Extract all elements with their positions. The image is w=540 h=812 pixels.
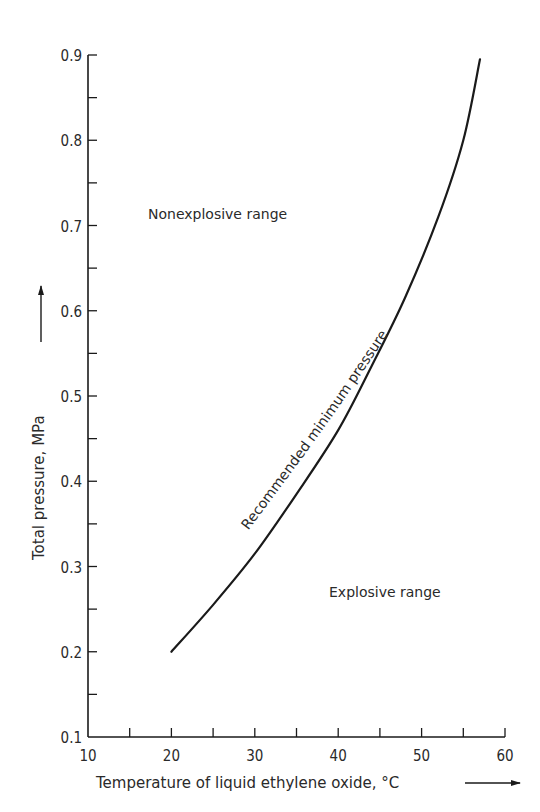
y-tick-label: 0.5 — [61, 388, 82, 406]
y-tick-label: 0.2 — [61, 644, 82, 662]
x-axis-title: Temperature of liquid ethylene oxide, °C — [95, 774, 399, 792]
x-axis-ticks: 102030405060 — [79, 728, 513, 765]
y-axis-ticks: 0.10.20.30.40.50.60.70.80.9 — [61, 47, 97, 747]
x-tick-label: 50 — [413, 747, 430, 765]
y-tick-label: 0.4 — [61, 473, 82, 491]
axes — [88, 55, 505, 737]
explosive-range-label: Explosive range — [329, 584, 441, 600]
data-series — [171, 59, 480, 651]
y-tick-label: 0.6 — [61, 303, 82, 321]
y-tick-label: 0.1 — [61, 729, 82, 747]
x-tick-label: 10 — [79, 747, 96, 765]
y-tick-label: 0.9 — [61, 47, 82, 65]
x-tick-label: 30 — [246, 747, 263, 765]
y-tick-label: 0.7 — [61, 218, 82, 236]
x-tick-label: 40 — [330, 747, 347, 765]
curve-label: Recommended minimum pressure — [238, 327, 391, 532]
y-tick-label: 0.3 — [61, 559, 82, 577]
y-axis-title: Total pressure, MPa — [30, 415, 48, 561]
pressure-temperature-chart: 102030405060 0.10.20.30.40.50.60.70.80.9… — [0, 0, 540, 812]
x-tick-label: 20 — [163, 747, 180, 765]
curve-label-text: Recommended minimum pressure — [238, 327, 391, 532]
y-tick-label: 0.8 — [61, 132, 82, 150]
recommended-minimum-pressure-curve — [171, 59, 480, 651]
x-tick-label: 60 — [496, 747, 513, 765]
nonexplosive-range-label: Nonexplosive range — [148, 206, 287, 222]
